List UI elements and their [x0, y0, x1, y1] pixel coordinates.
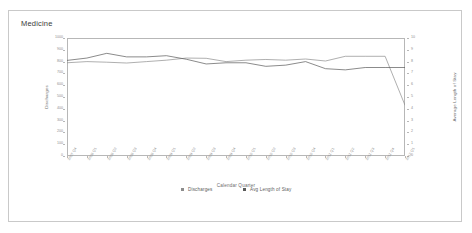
y-axis-right-title: Average Length of Stay	[452, 72, 457, 121]
y-axis-left-tick-mark	[63, 97, 65, 98]
y-axis-right-tick-label: 5	[411, 95, 413, 99]
y-axis-right-tick-mark	[407, 62, 409, 63]
y-axis-right-tick-mark	[407, 121, 409, 122]
y-axis-right-tick-label: 10	[411, 36, 415, 40]
y-axis-left-tick-mark	[63, 50, 65, 51]
legend-item[interactable]: Avg Length of Stay	[243, 187, 292, 192]
y-axis-left-tick-label: 1000	[55, 36, 63, 40]
y-axis-right-tick-mark	[407, 132, 409, 133]
y-axis-right-tick-label: 3	[411, 119, 413, 123]
square-marker	[181, 188, 185, 192]
y-axis-left-tick-mark	[63, 85, 65, 86]
chart-legend: DischargesAvg Length of Stay	[9, 187, 463, 192]
y-axis-left-tick-mark	[63, 121, 65, 122]
y-axis-right-tick-mark	[407, 50, 409, 51]
y-axis-left-ticks: 01002003004005006007008009001000	[39, 38, 65, 156]
y-axis-left-tick-mark	[63, 62, 65, 63]
line-avg-length-of-stay	[67, 53, 405, 70]
y-axis-right-tick-mark	[407, 109, 409, 110]
y-axis-left-tick-mark	[63, 73, 65, 74]
legend-item-label: Discharges	[188, 187, 212, 192]
y-axis-right-tick-mark	[407, 144, 409, 145]
y-axis-right-tick-label: 8	[411, 60, 413, 64]
y-axis-right-tick-label: 9	[411, 48, 413, 52]
y-axis-right-tick-label: 6	[411, 83, 413, 87]
y-axis-right-tick-label: 4	[411, 107, 413, 111]
y-axis-right-tick-mark	[407, 97, 409, 98]
y-axis-right-tick-label: 7	[411, 71, 413, 75]
y-axis-left-tick-mark	[63, 109, 65, 110]
y-axis-right-tick-label: 1	[411, 142, 413, 146]
page-title: Medicine	[21, 19, 53, 28]
square-marker	[243, 188, 247, 192]
y-axis-left-tick-mark	[63, 38, 65, 39]
series-lines	[67, 38, 405, 156]
y-axis-right-tick-mark	[407, 85, 409, 86]
plot-wrapper: Discharges Average Length of Stay 010020…	[67, 38, 405, 156]
y-axis-right-tick-mark	[407, 73, 409, 74]
y-axis-right-tick-mark	[407, 38, 409, 39]
y-axis-left-tick-mark	[63, 144, 65, 145]
y-axis-left-tick-mark	[63, 132, 65, 133]
y-axis-right-tick-label: 2	[411, 130, 413, 134]
legend-item[interactable]: Discharges	[181, 187, 213, 192]
y-axis-left-tick-mark	[63, 156, 65, 157]
y-axis-right-ticks: 012345678910	[407, 38, 433, 156]
line-discharges	[67, 56, 405, 105]
chart-panel: Medicine Discharges Average Length of St…	[8, 10, 462, 222]
legend-item-label: Avg Length of Stay	[250, 187, 291, 192]
x-axis-ticks: 2007 Q42008 Q12008 Q22008 Q32008 Q42009 …	[67, 156, 405, 184]
